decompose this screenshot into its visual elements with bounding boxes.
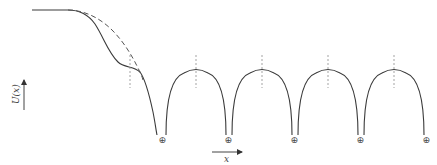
x-axis-label: x	[224, 154, 229, 164]
ion-symbols: ⊕⊕⊕⊕⊕	[159, 135, 431, 145]
ion-symbol: ⊕	[357, 135, 365, 145]
ion-symbol: ⊕	[291, 135, 299, 145]
periodic-potential-arches	[166, 55, 424, 135]
ion-symbol: ⊕	[159, 135, 167, 145]
ion-symbol: ⊕	[423, 135, 431, 145]
surface-potential-solid-curve	[68, 10, 157, 135]
surface-potential-dashed-curve	[68, 10, 143, 80]
ion-symbol: ⊕	[225, 135, 233, 145]
y-axis-label: U(x)	[11, 84, 21, 104]
potential-energy-diagram: ⊕⊕⊕⊕⊕ U(x) x	[0, 0, 437, 165]
